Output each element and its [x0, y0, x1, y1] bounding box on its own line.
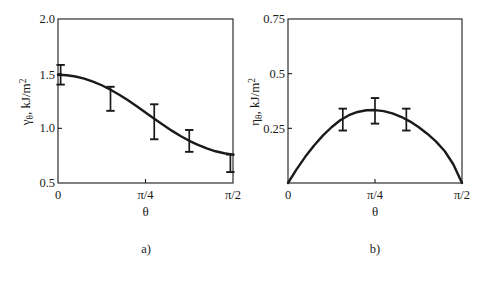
- panel-a-ytick-1-0: 1.0: [39, 122, 55, 135]
- panel-b-yaxis-exponent: 2: [247, 78, 257, 83]
- panel-a-errorbar-4: [226, 155, 234, 172]
- panel-a-xaxis-title: θ: [142, 205, 148, 218]
- panel-a-errorbar-1: [106, 87, 114, 111]
- panel-a-frame: [58, 19, 233, 183]
- panel-a-yaxis-title: γθ, kJ/m2: [18, 62, 36, 140]
- panel-b-ytick-0-75: 0.75: [263, 13, 285, 26]
- panel-b-xtick-0: 0: [285, 189, 291, 202]
- panel-b-errorbar-0: [339, 109, 347, 131]
- panel-a-ytick-2-0: 2.0: [39, 13, 55, 26]
- panel-b-xtick-pi-2: π/2: [454, 189, 470, 202]
- panel-b-ytick-0-5: 0.5: [269, 68, 285, 81]
- panel-a-ytick-1-5: 1.5: [39, 68, 55, 81]
- panel-a-errorbar-2: [150, 104, 158, 139]
- panel-a-errorbar-3: [185, 130, 193, 152]
- panel-a-xtick-0: 0: [55, 189, 61, 202]
- panel-b-curve: [288, 110, 462, 183]
- panel-a-curve: [58, 75, 233, 155]
- panel-a-yaxis-units: , kJ/m: [18, 83, 33, 115]
- panel-a-xtick-pi-4: π/4: [137, 189, 153, 202]
- panel-a-errorbar-0: [56, 65, 64, 85]
- panel-a-plot: [0, 0, 485, 283]
- panel-b-frame: [288, 19, 462, 183]
- panel-b-xtick-pi-4: π/4: [367, 189, 383, 202]
- panel-b-errorbar-2: [402, 109, 410, 131]
- panel-a-xtick-pi-2: π/2: [225, 189, 241, 202]
- panel-b-errorbar-1: [371, 98, 379, 124]
- panel-b-ytick-0-25: 0.25: [263, 122, 285, 135]
- panel-b-yaxis-symbol: η: [247, 119, 262, 126]
- panel-b-yaxis-units: , kJ/m: [247, 83, 262, 115]
- panel-a-yaxis-exponent: 2: [18, 79, 28, 84]
- panel-a-yaxis-symbol: γ: [18, 120, 33, 126]
- panel-b-yaxis-subscript: θ: [254, 115, 264, 119]
- panel-a-ytick-0-5: 0.5: [39, 177, 55, 190]
- panel-a-yaxis-subscript: θ: [25, 115, 35, 119]
- panel-b-xaxis-title: θ: [372, 205, 378, 218]
- figure-container: 2.0 1.5 1.0 0.5 0 π/4 π/2 θ γθ, kJ/m2 a)…: [0, 0, 485, 283]
- panel-a-caption: a): [141, 243, 151, 256]
- panel-b-caption: b): [370, 243, 380, 256]
- panel-b-yaxis-title: ηθ, kJ/m2: [247, 62, 265, 140]
